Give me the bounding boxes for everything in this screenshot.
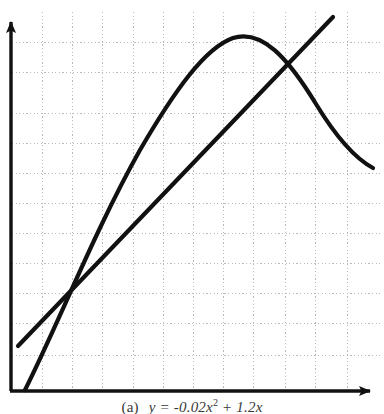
parabola-curve: [25, 36, 373, 390]
figure-container: (a)y = -0.02x2 + 1.2x: [0, 0, 384, 414]
grid-layer: [12, 12, 383, 390]
straight-line: [18, 17, 333, 346]
plot-canvas: [0, 0, 384, 414]
figure-caption: (a)y = -0.02x2 + 1.2x: [0, 398, 384, 414]
caption-equation-prefix: y = -0.02x: [149, 399, 213, 414]
caption-text: (a)y = -0.02x2 + 1.2x: [121, 399, 262, 414]
grid-horizontal-lines: [12, 42, 383, 355]
caption-equation-suffix: + 1.2x: [218, 399, 262, 414]
data-series-layer: [18, 17, 373, 390]
caption-label: (a): [121, 399, 138, 414]
